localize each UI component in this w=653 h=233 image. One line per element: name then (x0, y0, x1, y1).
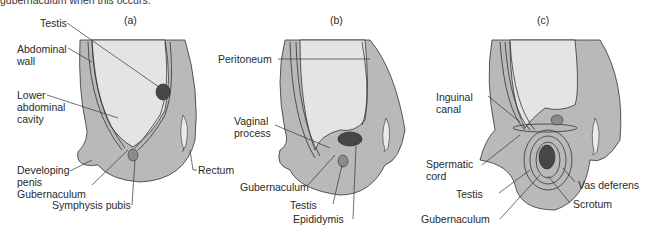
label-inguinal-canal-1: Inguinal (436, 91, 473, 103)
panel-b-title: (b) (330, 14, 343, 26)
label-testis-a: Testis (40, 17, 67, 29)
label-scrotum: Scrotum (573, 198, 612, 210)
label-peritoneum: Peritoneum (218, 53, 272, 65)
panel-b-drawing (279, 40, 405, 195)
label-spermatic-cord-1: Spermatic (426, 158, 473, 170)
panel-c-title: (c) (537, 14, 549, 26)
label-lower-abdominal-cavity-1: Lower (17, 89, 46, 101)
label-abdominal-wall-2: wall (17, 55, 35, 67)
label-gubernaculum-c: Gubernaculum (421, 213, 490, 225)
label-spermatic-cord-2: cord (426, 170, 446, 182)
label-symphysis-pubis: Symphysis pubis (52, 199, 131, 211)
label-lower-abdominal-cavity-2: abdominal (17, 101, 65, 113)
label-gubernaculum-b: Gubernaculum (240, 181, 309, 193)
label-testis-c: Testis (456, 188, 483, 200)
label-rectum: Rectum (198, 164, 234, 176)
label-testis-b: Testis (290, 199, 317, 211)
label-epididymis: Epididymis (293, 213, 344, 225)
label-vas-deferens: Vas deferens (578, 179, 639, 191)
label-vaginal-process-1: Vaginal (234, 115, 268, 127)
label-inguinal-canal-2: canal (436, 103, 461, 115)
label-developing-penis-2: penis (17, 176, 42, 188)
label-abdominal-wall-1: Abdominal (17, 43, 67, 55)
panel-a-title: (a) (124, 14, 137, 26)
label-lower-abdominal-cavity-3: cavity (17, 113, 44, 125)
label-vaginal-process-2: process (234, 127, 271, 139)
label-developing-penis-1: Developing (17, 164, 70, 176)
